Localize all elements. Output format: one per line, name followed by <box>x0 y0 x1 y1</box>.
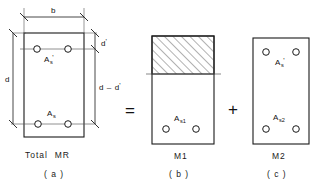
dimension-label-d-prime: d' <box>101 40 108 48</box>
rebar-circle <box>263 126 270 133</box>
dimension-label-lever-arm: d – d' <box>99 84 122 92</box>
plus-operator: + <box>228 101 238 118</box>
panel-a-caption: ( a ) <box>44 170 64 179</box>
bar-label-tension-steel-c: As2 <box>273 114 285 122</box>
beam-outline-a <box>24 33 84 137</box>
rebar-circle <box>65 121 72 128</box>
compression-block-hatched <box>152 36 214 74</box>
panel-b-beam-section <box>146 36 221 144</box>
rebar-circle <box>35 121 42 128</box>
equals-operator: = <box>125 102 135 119</box>
bar-label-tension-steel-a: As <box>47 110 56 118</box>
beam-outline-c <box>253 38 309 144</box>
panel-b-caption: ( b ) <box>169 170 189 179</box>
dimension-label-d: d <box>5 76 10 84</box>
bar-label-tension-steel-b: As1 <box>174 115 186 123</box>
beam-decomposition-drawing <box>0 0 316 190</box>
rebar-circle <box>34 46 41 53</box>
rebar-circle <box>293 126 300 133</box>
panel-b-moment-label: M1 <box>174 152 188 161</box>
bar-label-compression-steel-c: As' <box>275 59 286 67</box>
panel-c-moment-label: M2 <box>272 152 286 161</box>
panel-c-caption: ( c ) <box>267 170 287 179</box>
rebar-circle <box>293 49 300 56</box>
panel-a-moment-label: Total MR <box>25 151 70 160</box>
bar-label-compression-steel-a: As' <box>44 56 55 64</box>
dimension-label-b: b <box>51 7 56 15</box>
rebar-circle <box>163 126 170 133</box>
rebar-circle <box>263 49 270 56</box>
panel-c-beam-section <box>253 38 309 144</box>
rebar-circle <box>65 46 72 53</box>
figure-canvas: b d d' d – d' As' As Total MR ( a ) = As… <box>0 0 316 190</box>
rebar-circle <box>193 126 200 133</box>
